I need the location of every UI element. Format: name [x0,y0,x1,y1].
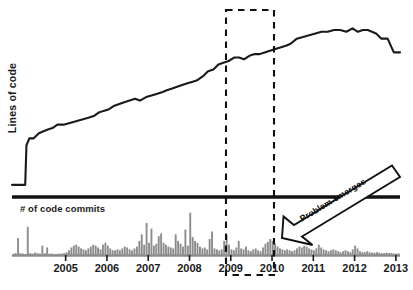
x-axis-tick-label-2013: 2013 [376,262,413,274]
bar [180,244,182,255]
x-axis-tick-label-2005: 2005 [46,262,86,274]
x-axis-tick-label-2012: 2012 [335,262,375,274]
bar [17,238,19,255]
bar [325,250,327,255]
bar [78,247,80,255]
bar [109,248,111,255]
bar [286,249,288,255]
lines-of-code-series [12,28,400,185]
bar [163,243,165,255]
bar [245,247,247,255]
bar [95,246,97,255]
bar [206,249,208,255]
bar [255,248,257,255]
bar [160,233,162,255]
bar [214,248,216,255]
bar [189,213,191,255]
bar [87,248,89,255]
bar [320,247,322,255]
bar [131,250,133,255]
bar [92,245,94,255]
bar [153,246,155,255]
bar [235,247,237,255]
bar [150,229,152,255]
bar [306,247,308,255]
bar [201,248,203,255]
bar [247,250,249,255]
bar [240,248,242,255]
bar [117,249,119,255]
bar [182,247,184,255]
x-axis-tick-label-2009: 2009 [211,262,251,274]
bar [112,250,114,255]
bar [146,223,148,255]
bar [335,250,337,255]
bar [83,249,85,255]
bar [204,247,206,255]
bar [124,247,126,255]
bar [303,246,305,255]
bar [289,250,291,255]
bar [41,246,43,255]
bar [97,247,99,255]
bar [187,246,189,255]
bar [165,245,167,255]
bar [308,248,310,255]
code-commits-bars [12,213,399,255]
bar [75,245,77,255]
bar [298,247,300,255]
bar [158,236,160,255]
bar [277,247,279,255]
bar [85,250,87,255]
bar [46,247,48,255]
y-axis-label-lines-of-code: Lines of code [6,52,18,144]
x-axis-tick-label-2011: 2011 [293,262,333,274]
bar [100,249,102,255]
bar [27,227,29,255]
bar-panel-label: # of code commits [20,203,105,214]
bar [284,250,286,255]
bar [68,250,70,255]
bar [102,245,104,255]
bar [134,248,136,255]
bar [143,245,145,255]
bar [155,244,157,255]
bar [209,239,211,255]
bar [315,248,317,255]
bar [344,250,346,255]
bar [323,249,325,255]
bar [192,237,194,255]
bar [243,249,245,255]
bar [148,243,150,255]
bar [330,250,332,255]
bar [80,248,82,255]
bar [175,234,177,255]
bar [357,248,359,255]
bar [126,247,128,255]
bar [238,241,240,255]
bar [252,249,254,255]
bar [269,239,271,255]
bar [194,241,196,255]
bar [199,247,201,255]
bar [141,234,143,255]
bar [138,241,140,255]
bar [172,248,174,255]
x-axis-tick-label-2006: 2006 [87,262,127,274]
bar [313,250,315,255]
bar [70,247,72,255]
bar [228,245,230,255]
bar [211,232,213,256]
bar [311,249,313,255]
x-axis-tick-label-2008: 2008 [169,262,209,274]
bar [294,250,296,255]
bar [107,246,109,255]
highlight-box [226,10,274,275]
bar [177,241,179,255]
bar [223,241,225,255]
bar [170,247,172,255]
bar [332,249,334,255]
bar [216,249,218,255]
